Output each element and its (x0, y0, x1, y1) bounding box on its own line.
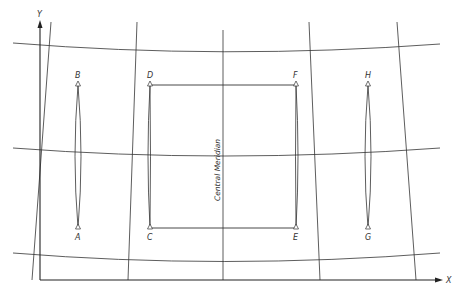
meridian-right (309, 22, 320, 280)
point-E-marker-icon (294, 224, 299, 229)
label-A: A (74, 233, 80, 242)
point-D-marker-icon (148, 81, 153, 86)
point-G-marker-icon (366, 224, 371, 229)
label-E: E (293, 233, 299, 242)
meridian-far-left (32, 22, 51, 280)
parallel-top (13, 43, 440, 52)
parallel-bottom (13, 253, 440, 262)
point-A-marker-icon (76, 224, 81, 229)
point-C-marker-icon (148, 224, 153, 229)
label-B: B (75, 71, 81, 80)
parallel-middle (13, 148, 440, 156)
y-axis-arrow-icon (38, 20, 43, 28)
y-axis-label: Y (37, 10, 43, 19)
central-meridian-label: Central Meridian (213, 139, 222, 201)
lens-G-H (365, 85, 371, 228)
point-H-marker-icon (366, 81, 371, 86)
label-F: F (293, 71, 298, 80)
point-B-marker-icon (76, 81, 81, 86)
projection-diagram: Y X B A D (0, 0, 457, 290)
lens-C-D (148, 85, 151, 228)
lens-A-B (75, 85, 81, 228)
meridian-left (128, 22, 137, 280)
label-C: C (147, 233, 153, 242)
label-D: D (147, 71, 153, 80)
point-F-marker-icon (294, 81, 299, 86)
x-axis-label: X (445, 276, 452, 285)
label-H: H (365, 71, 371, 80)
lens-E-F (296, 85, 299, 228)
x-axis-arrow-icon (435, 278, 443, 283)
label-G: G (365, 233, 371, 242)
